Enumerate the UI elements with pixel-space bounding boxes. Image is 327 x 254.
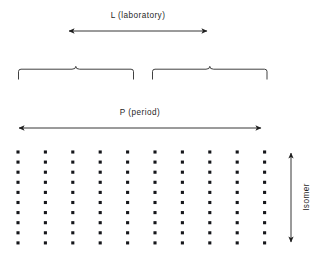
grid-dot	[263, 150, 266, 153]
grid-dot	[71, 211, 74, 214]
grid-dot	[99, 201, 102, 204]
grid-dot	[208, 221, 211, 224]
grid-dot	[99, 241, 102, 244]
grid-dot	[71, 241, 74, 244]
grid-dot	[208, 231, 211, 234]
grid-dot	[16, 231, 19, 234]
grid-dot	[44, 221, 47, 224]
grid-dot	[153, 171, 156, 174]
brace-group	[19, 66, 268, 79]
grid-dot	[263, 241, 266, 244]
laboratory-label: L (laboratory)	[111, 11, 166, 20]
isomer-period-diagram: L (laboratory) P (period) Isomer	[0, 0, 327, 254]
grid-dot	[208, 150, 211, 153]
grid-dot	[208, 161, 211, 164]
grid-dot	[16, 171, 19, 174]
grid-dot	[263, 161, 266, 164]
grid-dot	[16, 211, 19, 214]
grid-dot	[181, 211, 184, 214]
grid-dot	[16, 221, 19, 224]
grid-dot	[16, 201, 19, 204]
grid-dot	[181, 221, 184, 224]
grid-dot	[236, 221, 239, 224]
grid-dot	[71, 221, 74, 224]
grid-dot	[44, 181, 47, 184]
right-brace	[153, 66, 268, 79]
grid-dot	[126, 221, 129, 224]
grid-dot	[71, 231, 74, 234]
grid-dot	[181, 181, 184, 184]
grid-dot	[236, 201, 239, 204]
grid-dot	[71, 181, 74, 184]
grid-dot	[236, 191, 239, 194]
grid-dot	[126, 191, 129, 194]
grid-dot	[208, 211, 211, 214]
grid-dot	[99, 221, 102, 224]
grid-dot	[126, 161, 129, 164]
grid-dot	[153, 221, 156, 224]
grid-dot	[208, 181, 211, 184]
grid-dot	[16, 191, 19, 194]
grid-dot	[16, 150, 19, 153]
grid-dot	[153, 201, 156, 204]
grid-dot	[126, 171, 129, 174]
grid-dot	[236, 171, 239, 174]
grid-dot	[263, 231, 266, 234]
grid-dot	[44, 150, 47, 153]
grid-dot	[263, 171, 266, 174]
left-brace	[19, 66, 134, 79]
grid-dot	[126, 201, 129, 204]
grid-dot	[153, 191, 156, 194]
grid-dot	[99, 171, 102, 174]
grid-dot	[153, 181, 156, 184]
laboratory-measure-group: L (laboratory)	[69, 11, 207, 31]
grid-dot	[44, 161, 47, 164]
grid-dot	[208, 201, 211, 204]
grid-dot	[71, 161, 74, 164]
grid-dot	[263, 221, 266, 224]
grid-dot	[208, 191, 211, 194]
grid-dot	[16, 161, 19, 164]
grid-dot	[236, 150, 239, 153]
grid-dot	[71, 171, 74, 174]
grid-dot	[153, 161, 156, 164]
grid-dot	[99, 150, 102, 153]
grid-dot	[236, 241, 239, 244]
grid-dot	[99, 211, 102, 214]
grid-dot	[153, 211, 156, 214]
grid-dot	[181, 231, 184, 234]
isomer-axis-group: Isomer	[291, 153, 311, 242]
grid-dot	[44, 191, 47, 194]
grid-dot	[16, 181, 19, 184]
grid-dot	[153, 231, 156, 234]
grid-dot	[153, 241, 156, 244]
grid-dot	[126, 231, 129, 234]
grid-dot	[263, 181, 266, 184]
grid-dot	[99, 191, 102, 194]
grid-dot	[263, 191, 266, 194]
grid-dot	[16, 241, 19, 244]
grid-dot	[153, 150, 156, 153]
grid-dot	[71, 201, 74, 204]
grid-dot	[126, 211, 129, 214]
grid-dot	[236, 211, 239, 214]
grid-dot	[99, 161, 102, 164]
grid-dot	[99, 231, 102, 234]
grid-dot	[126, 241, 129, 244]
isomer-period-dot-grid	[16, 150, 266, 244]
grid-dot	[181, 201, 184, 204]
grid-dot	[126, 150, 129, 153]
grid-dot	[236, 231, 239, 234]
grid-dot	[126, 181, 129, 184]
period-measure-group: P (period)	[19, 108, 261, 128]
grid-dot	[236, 181, 239, 184]
grid-dot	[181, 191, 184, 194]
grid-dot	[44, 211, 47, 214]
grid-dot	[181, 150, 184, 153]
grid-dot	[71, 150, 74, 153]
grid-dot	[181, 161, 184, 164]
grid-dot	[208, 171, 211, 174]
isomer-label: Isomer	[302, 183, 311, 211]
grid-dot	[71, 191, 74, 194]
grid-dot	[44, 171, 47, 174]
